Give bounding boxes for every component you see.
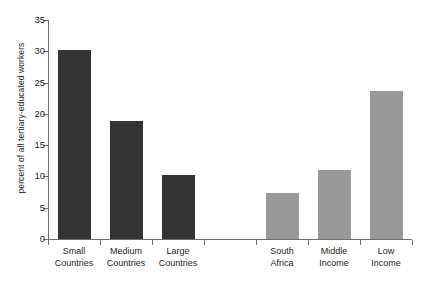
x-tick-mark xyxy=(308,240,309,245)
plot-area: 05101520253035 SmallCountriesMediumCount… xyxy=(48,20,412,239)
x-axis-label: MiddleIncome xyxy=(308,246,360,269)
y-tick-label: 30 xyxy=(34,44,45,58)
bar-chart-figure: percent of all tertiary-educated workers… xyxy=(0,0,421,285)
x-axis-label: SouthAfrica xyxy=(256,246,308,269)
x-axis-label: MediumCountries xyxy=(100,246,152,269)
y-tick-label: 0 xyxy=(40,232,45,246)
x-tick-mark xyxy=(48,240,49,245)
y-axis-line xyxy=(48,20,49,239)
bar-south-africa xyxy=(266,193,299,239)
y-axis-title: percent of all tertiary-educated workers xyxy=(14,0,28,238)
x-tick-mark xyxy=(152,240,153,245)
y-tick-label: 25 xyxy=(34,76,45,90)
bar-middle-income xyxy=(318,170,351,239)
y-tick-label: 15 xyxy=(34,138,45,152)
y-tick-label: 10 xyxy=(34,169,45,183)
x-axis-label: LargeCountries xyxy=(152,246,204,269)
bar-low-income xyxy=(370,91,403,239)
y-tick-label: 5 xyxy=(40,201,45,215)
x-tick-mark xyxy=(360,240,361,245)
x-tick-mark xyxy=(204,240,205,245)
bar-medium-countries xyxy=(110,121,143,239)
y-tick-label: 35 xyxy=(34,13,45,27)
y-tick-label: 20 xyxy=(34,107,45,121)
x-axis-label: LowIncome xyxy=(360,246,412,269)
x-axis-label: SmallCountries xyxy=(48,246,100,269)
x-tick-mark xyxy=(100,240,101,245)
x-tick-mark xyxy=(412,240,413,245)
x-axis-line xyxy=(48,239,412,240)
x-tick-mark xyxy=(256,240,257,245)
bar-large-countries xyxy=(162,175,195,239)
bar-small-countries xyxy=(58,50,91,239)
